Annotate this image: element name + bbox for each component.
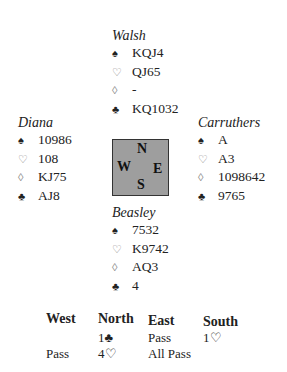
header-north: North — [98, 311, 148, 330]
bid-cell: 1♣ — [98, 330, 148, 346]
west-diamonds: KJ75 — [38, 169, 67, 184]
diamond-icon: ◊ — [198, 169, 218, 187]
north-clubs: KQ1032 — [132, 101, 179, 116]
header-south: South — [203, 311, 253, 330]
club-icon: ♣ — [112, 101, 132, 119]
north-diamonds: - — [132, 82, 137, 97]
player-name-west: Diana — [18, 114, 72, 131]
bid-cell: 4♡ — [98, 346, 148, 362]
bid-cell: Pass — [148, 330, 203, 346]
player-name-south: Beasley — [112, 204, 169, 221]
bid-cell — [46, 330, 98, 346]
east-diamonds: 1098642 — [218, 169, 265, 184]
bid-cell — [203, 346, 253, 362]
west-spades: 10986 — [38, 132, 72, 147]
south-diamonds: AQ3 — [132, 259, 158, 274]
east-spades: A — [218, 132, 228, 147]
compass-north-label: N — [137, 141, 147, 157]
spade-icon: ♠ — [198, 132, 218, 150]
bid-cell: Pass — [46, 346, 98, 362]
bid-cell: All Pass — [148, 346, 203, 362]
west-hearts: 108 — [38, 151, 58, 166]
north-hearts: QJ65 — [132, 64, 161, 79]
south-clubs: 4 — [132, 278, 139, 293]
spade-icon: ♠ — [112, 45, 132, 63]
spade-icon: ♠ — [112, 222, 132, 240]
heart-icon: ♡ — [18, 151, 38, 169]
spade-icon: ♠ — [18, 132, 38, 150]
east-hearts: A3 — [218, 151, 235, 166]
heart-icon: ♡ — [112, 64, 132, 82]
diamond-icon: ◊ — [112, 82, 132, 100]
club-icon: ♣ — [198, 188, 218, 206]
bidding-row: Pass 4♡ All Pass — [46, 346, 253, 362]
west-hand: Diana ♠10986 ♡108 ◊KJ75 ♣AJ8 — [18, 114, 72, 205]
south-spades: 7532 — [132, 222, 159, 237]
player-name-north: Walsh — [112, 27, 179, 44]
compass-south-label: S — [137, 177, 145, 193]
west-clubs: AJ8 — [38, 188, 60, 203]
header-east: East — [148, 311, 203, 330]
compass-east-label: E — [153, 161, 162, 177]
heart-icon: ♡ — [198, 151, 218, 169]
south-hand: Beasley ♠7532 ♡K9742 ◊AQ3 ♣4 — [112, 204, 169, 295]
north-hand: Walsh ♠KQJ4 ♡QJ65 ◊- ♣KQ1032 — [112, 27, 179, 118]
diamond-icon: ◊ — [18, 169, 38, 187]
compass-west-label: W — [117, 159, 131, 175]
bidding-row: 1♣ Pass 1♡ — [46, 330, 253, 346]
diamond-icon: ◊ — [112, 259, 132, 277]
east-clubs: 9765 — [218, 188, 245, 203]
south-hearts: K9742 — [132, 241, 169, 256]
player-name-east: Carruthers — [198, 114, 265, 131]
bid-cell: 1♡ — [203, 330, 253, 346]
bidding-table: West North East South 1♣ Pass 1♡ Pass 4♡… — [46, 311, 253, 362]
header-west: West — [46, 311, 98, 330]
compass-box: N W E S — [112, 139, 169, 196]
club-icon: ♣ — [112, 278, 132, 296]
east-hand: Carruthers ♠A ♡A3 ◊1098642 ♣9765 — [198, 114, 265, 205]
club-icon: ♣ — [18, 188, 38, 206]
heart-icon: ♡ — [112, 241, 132, 259]
north-spades: KQJ4 — [132, 45, 164, 60]
bidding-header-row: West North East South — [46, 311, 253, 330]
